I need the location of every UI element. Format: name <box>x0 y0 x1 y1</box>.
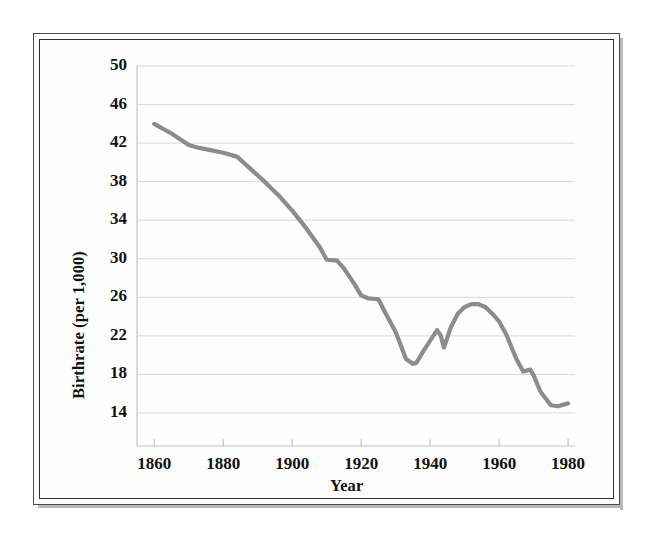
plot-area: Birthrate (per 1,000) Year 1418222630343… <box>39 39 614 499</box>
x-tick-label-1900: 1900 <box>262 454 322 474</box>
y-axis-title: Birthrate (per 1,000) <box>69 251 89 399</box>
y-tick-label-34: 34 <box>87 209 127 229</box>
x-tick-label-1960: 1960 <box>469 454 529 474</box>
x-axis-title: Year <box>330 476 363 496</box>
figure-frame-shadow-right <box>620 38 623 510</box>
y-tick-label-42: 42 <box>87 132 127 152</box>
x-tick-label-1860: 1860 <box>124 454 184 474</box>
x-tick-label-1880: 1880 <box>193 454 253 474</box>
y-tick-label-18: 18 <box>87 363 127 383</box>
y-tick-label-22: 22 <box>87 325 127 345</box>
x-tick-label-1980: 1980 <box>538 454 598 474</box>
figure-root: Birthrate (per 1,000) Year 1418222630343… <box>0 0 651 533</box>
data-line-birthrate <box>154 124 568 406</box>
y-tick-label-46: 46 <box>87 94 127 114</box>
y-tick-label-38: 38 <box>87 171 127 191</box>
y-tick-label-50: 50 <box>87 55 127 75</box>
y-tick-label-26: 26 <box>87 286 127 306</box>
x-tick-label-1920: 1920 <box>331 454 391 474</box>
y-tick-label-30: 30 <box>87 248 127 268</box>
y-tick-label-14: 14 <box>87 402 127 422</box>
figure-frame-shadow-bottom <box>38 505 623 508</box>
x-tick-label-1940: 1940 <box>400 454 460 474</box>
